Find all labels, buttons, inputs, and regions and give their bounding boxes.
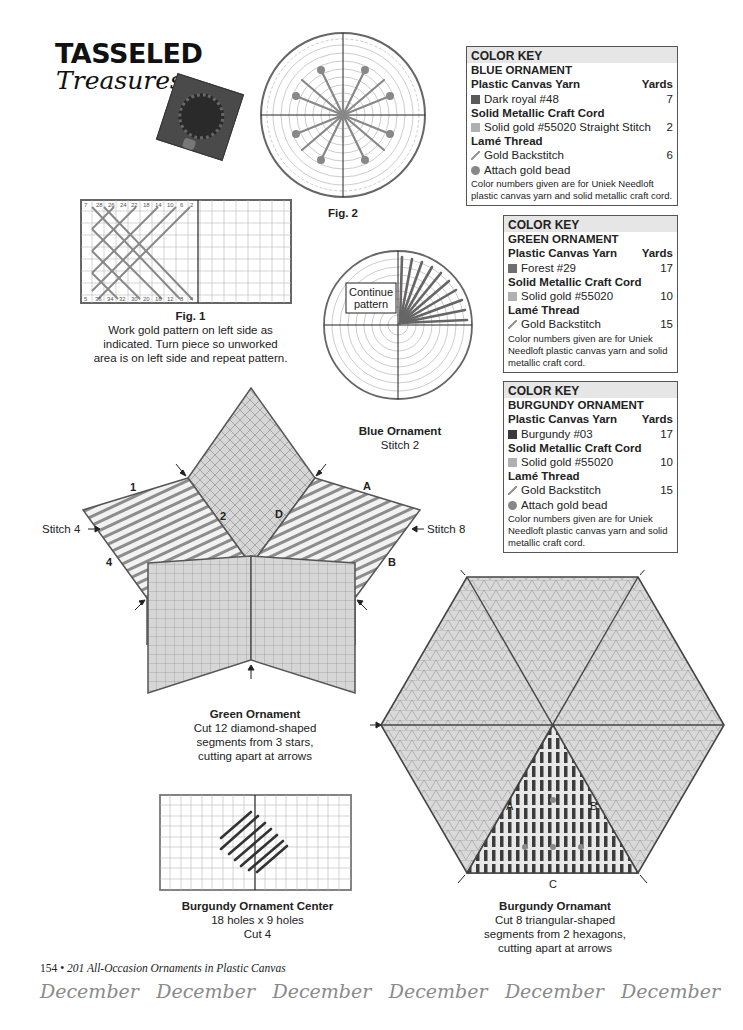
- svg-text:24: 24: [120, 202, 127, 208]
- burgundy-label-a: A: [506, 800, 514, 812]
- green-label-2: 2: [220, 510, 226, 522]
- forest-swatch-icon: [508, 264, 517, 273]
- burgundy-center-caption-line: Cut 4: [170, 927, 345, 941]
- burgundy-center-diagram: [159, 794, 352, 891]
- green-label-b: B: [388, 556, 396, 568]
- burgundy-caption-line: Cut 8 triangular-shaped: [470, 913, 640, 927]
- burgundy-label-c: C: [549, 878, 557, 890]
- month-label: December: [389, 980, 488, 1002]
- color-key-heading: COLOR KEY: [504, 382, 677, 398]
- section-lame: Lamé Thread: [504, 303, 677, 317]
- month-label: December: [40, 980, 139, 1002]
- backstitch-icon: [471, 151, 480, 160]
- color-key-note: Color numbers given are for Uniek Needlo…: [467, 177, 677, 205]
- fig1-caption-line: Work gold pattern on left side as: [88, 323, 293, 337]
- fig2-diagram: [258, 30, 428, 200]
- section-yarn: Plastic Canvas YarnYards: [504, 246, 677, 260]
- fig1-caption-line: area is on left side and repeat pattern.: [88, 351, 293, 365]
- green-label-a: A: [363, 480, 371, 492]
- tassel-image: [182, 137, 197, 150]
- color-key-green: COLOR KEY GREEN ORNAMENT Plastic Canvas …: [503, 215, 678, 373]
- svg-text:26: 26: [108, 202, 115, 208]
- key-item-burgundy: Burgundy #0317: [504, 427, 677, 441]
- month-banner: December December December December Dece…: [40, 980, 720, 1002]
- svg-text:10: 10: [167, 202, 174, 208]
- green-caption-line: cutting apart at arrows: [155, 749, 355, 763]
- month-label: December: [156, 980, 255, 1002]
- key-item-backstitch: Gold Backstitch15: [504, 317, 677, 331]
- svg-text:36: 36: [95, 296, 102, 302]
- key-item-backstitch: Gold Backstitch15: [504, 483, 677, 497]
- stitch-8-label: Stitch 8: [427, 523, 465, 535]
- green-label-1: 1: [130, 481, 136, 493]
- backstitch-icon: [508, 486, 517, 495]
- fig1-label: Fig. 1: [88, 309, 293, 323]
- color-key-note: Color numbers given are for Uniek Needlo…: [504, 332, 677, 372]
- book-title: 201 All-Occasion Ornaments in Plastic Ca…: [67, 962, 286, 974]
- section-metallic: Solid Metallic Craft Cord: [504, 275, 677, 289]
- svg-text:16: 16: [155, 296, 162, 302]
- bead-icon: [508, 501, 517, 510]
- key-item-dark-royal: Dark royal #487: [467, 92, 677, 106]
- section-metallic: Solid Metallic Craft Cord: [467, 106, 677, 120]
- color-key-note: Color numbers given are for Uniek Needlo…: [504, 512, 677, 552]
- green-label-d: D: [275, 508, 283, 520]
- key-item-bead: Attach gold bead: [467, 163, 677, 177]
- green-caption-line: segments from 3 stars,: [155, 735, 355, 749]
- svg-text:12: 12: [167, 296, 174, 302]
- section-metallic: Solid Metallic Craft Cord: [504, 441, 677, 455]
- burgundy-label-b: B: [590, 800, 597, 812]
- ornament-name: BLUE ORNAMENT: [467, 63, 677, 77]
- burgundy-ornament-diagram: A B C: [370, 570, 743, 890]
- section-lame: Lamé Thread: [504, 469, 677, 483]
- continue-pattern-callout: Continue: [349, 286, 393, 298]
- svg-text:34: 34: [107, 296, 114, 302]
- color-key-blue: COLOR KEY BLUE ORNAMENT Plastic Canvas Y…: [466, 46, 678, 206]
- fig1-caption-line: indicated. Turn piece so unworked: [88, 337, 293, 351]
- color-key-heading: COLOR KEY: [467, 47, 677, 63]
- dark-royal-swatch-icon: [471, 95, 480, 104]
- color-key-heading: COLOR KEY: [504, 216, 677, 232]
- ornament-disc-image: [172, 87, 230, 145]
- fig2-label: Fig. 2: [328, 207, 358, 219]
- section-yarn: Plastic Canvas YarnYards: [467, 77, 677, 91]
- section-yarn: Plastic Canvas YarnYards: [504, 412, 677, 426]
- burgundy-ornament-title: Burgundy Ornamant: [470, 899, 640, 913]
- green-caption-line: Cut 12 diamond-shaped: [155, 721, 355, 735]
- gold-swatch-icon: [471, 123, 480, 132]
- burgundy-caption-line: cutting apart at arrows: [470, 941, 640, 955]
- svg-text:22: 22: [131, 202, 138, 208]
- svg-text:14: 14: [155, 202, 162, 208]
- fig1-diagram: 728262422 18141062 536343230 20161284: [80, 199, 292, 304]
- key-item-bead: Attach gold bead: [504, 498, 677, 512]
- color-key-burgundy: COLOR KEY BURGUNDY ORNAMENT Plastic Canv…: [503, 381, 678, 553]
- green-label-4: 4: [106, 556, 113, 568]
- ornament-name: BURGUNDY ORNAMENT: [504, 398, 677, 412]
- key-item-forest: Forest #2917: [504, 261, 677, 275]
- gold-swatch-icon: [508, 292, 517, 301]
- month-label: December: [272, 980, 371, 1002]
- svg-text:32: 32: [119, 296, 126, 302]
- month-label: December: [505, 980, 604, 1002]
- key-item-solid-gold: Solid gold #5502010: [504, 289, 677, 303]
- stitch-4-label: Stitch 4: [42, 523, 81, 535]
- footer-bullet: •: [60, 962, 64, 974]
- gold-swatch-icon: [508, 458, 517, 467]
- page-title: TASSELED: [55, 38, 202, 69]
- svg-text:28: 28: [96, 202, 103, 208]
- backstitch-icon: [508, 320, 517, 329]
- key-item-solid-gold: Solid gold #5502010: [504, 455, 677, 469]
- burgundy-center-title: Burgundy Ornament Center: [170, 899, 345, 913]
- burgundy-swatch-icon: [508, 430, 517, 439]
- green-ornament-lower-panels: [147, 555, 357, 700]
- svg-text:30: 30: [131, 296, 138, 302]
- section-lame: Lamé Thread: [467, 134, 677, 148]
- ornament-name: GREEN ORNAMENT: [504, 232, 677, 246]
- page-number: 154: [40, 962, 57, 974]
- burgundy-center-caption-line: 18 holes x 9 holes: [170, 913, 345, 927]
- key-item-solid-gold: Solid gold #55020 Straight Stitch2: [467, 120, 677, 134]
- page-footer: 154 • 201 All-Occasion Ornaments in Plas…: [40, 962, 286, 974]
- page-subtitle: Treasures: [56, 66, 183, 95]
- green-ornament-title: Green Ornament: [155, 707, 355, 721]
- svg-text:18: 18: [143, 202, 150, 208]
